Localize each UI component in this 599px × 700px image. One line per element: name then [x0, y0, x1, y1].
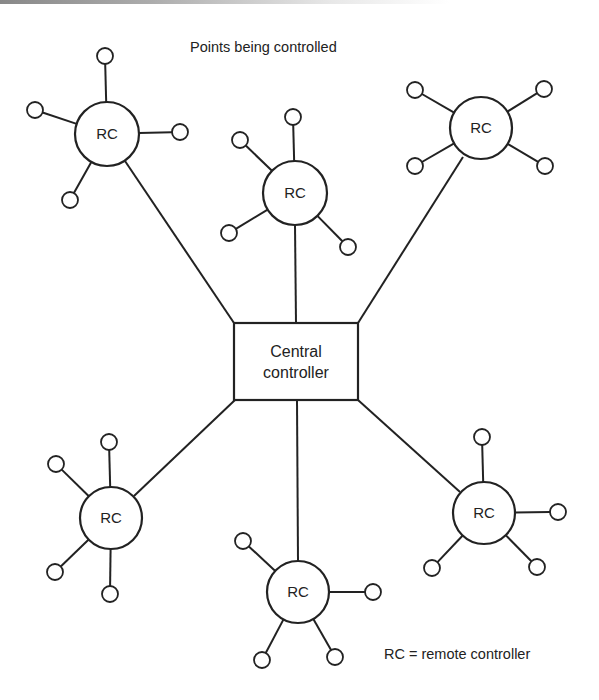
- controlled-point: [102, 586, 118, 602]
- rc-bottom-left: RC: [47, 434, 142, 602]
- controlled-point: [172, 124, 188, 140]
- central-controller-label-line1: Central: [270, 343, 322, 360]
- spoke: [293, 125, 294, 161]
- spoke: [62, 470, 89, 497]
- remote-controller-label: RC: [96, 125, 118, 142]
- spoke: [249, 546, 275, 570]
- spoke: [139, 132, 172, 133]
- remote-controller-label: RC: [473, 504, 495, 521]
- spoke: [43, 113, 77, 124]
- link-rc-top-middle: [295, 225, 296, 323]
- controlled-point: [365, 584, 381, 600]
- spoke: [422, 143, 454, 162]
- controlled-point: [424, 560, 440, 576]
- controlled-point: [407, 158, 423, 174]
- remote-controller-label: RC: [470, 119, 492, 136]
- link-rc-bottom-right: [358, 400, 460, 492]
- diagram-legend: RC = remote controller: [384, 646, 530, 662]
- link-rc-top-right: [358, 157, 463, 323]
- spoke: [317, 216, 342, 241]
- rc-top-right: RC: [407, 81, 553, 174]
- spoke: [61, 540, 89, 567]
- link-rc-bottom-middle: [297, 400, 298, 561]
- spoke: [482, 445, 483, 482]
- spoke: [506, 535, 532, 561]
- spoke: [507, 93, 537, 111]
- central-controller: Central controller: [234, 323, 358, 400]
- spoke: [105, 64, 106, 102]
- spoke: [266, 619, 284, 653]
- controlled-point: [48, 456, 64, 472]
- controlled-point: [232, 132, 248, 148]
- controlled-point: [407, 82, 423, 98]
- controlled-point: [285, 109, 301, 125]
- controlled-point: [62, 192, 78, 208]
- controlled-point: [340, 239, 356, 255]
- remote-controller-label: RC: [284, 184, 306, 201]
- controlled-point: [221, 225, 237, 241]
- central-controller-label-line2: controller: [263, 364, 329, 381]
- link-rc-bottom-left: [134, 400, 235, 496]
- controlled-point: [537, 158, 553, 174]
- spoke: [422, 94, 454, 113]
- controlled-point: [254, 652, 270, 668]
- spoke: [246, 146, 272, 171]
- controlled-point: [327, 649, 343, 665]
- controlled-point: [536, 81, 552, 97]
- remote-controller-label: RC: [100, 509, 122, 526]
- rc-top-left: RC: [27, 48, 188, 208]
- controlled-point: [550, 504, 566, 520]
- controlled-point: [97, 48, 113, 64]
- central-controller-box: [234, 323, 358, 400]
- spoke: [109, 450, 110, 487]
- spoke: [508, 144, 538, 162]
- controlled-point: [529, 559, 545, 575]
- spoke: [74, 162, 91, 193]
- controlled-point: [235, 533, 251, 549]
- controlled-point: [101, 434, 117, 450]
- remote-controller-label: RC: [287, 583, 309, 600]
- link-rc-top-left: [125, 161, 234, 323]
- diagram-title: Points being controlled: [190, 39, 337, 55]
- spoke: [313, 619, 331, 650]
- controlled-point: [474, 429, 490, 445]
- spoke: [236, 210, 268, 229]
- controlled-point: [27, 102, 43, 118]
- network-diagram: Central controller RCRCRCRCRCRC Points b…: [0, 0, 599, 700]
- controlled-point: [47, 564, 63, 580]
- spoke: [437, 536, 462, 563]
